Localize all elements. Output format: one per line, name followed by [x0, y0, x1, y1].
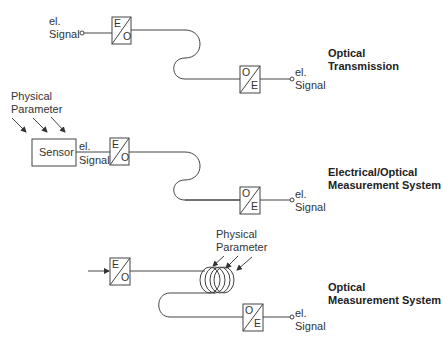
title-line: Optical [328, 47, 399, 60]
converter-top-letter: O [242, 67, 250, 78]
electrical-signal-label: el. Signal [79, 139, 110, 167]
parameter-arrow-icon [12, 118, 26, 132]
section-optical-transmission [80, 17, 294, 93]
optical-fiber [159, 293, 243, 317]
section-title: Optical Transmission [328, 47, 399, 73]
label-line: Parameter [216, 241, 267, 254]
label-line: Signal [295, 320, 326, 333]
label-line: el. [79, 139, 110, 153]
output-terminal-icon [290, 198, 294, 202]
label-line: el. [49, 15, 80, 28]
parameter-arrow-icon [51, 117, 65, 132]
physical-parameter-label: Physical Parameter [11, 90, 62, 116]
title-line: Transmission [328, 60, 399, 73]
converter-bottom-letter: E [251, 201, 258, 212]
input-terminal-icon [80, 31, 84, 35]
title-line: Measurement System [328, 294, 441, 307]
label-line: Signal [295, 201, 326, 214]
parameter-arrow-icon [33, 118, 47, 132]
converter-bottom-letter: O [123, 31, 131, 42]
label-line: el. [295, 188, 326, 201]
converter-bottom-letter: O [121, 272, 129, 283]
label-line: Signal [49, 28, 80, 41]
converter-bottom-letter: O [121, 152, 129, 163]
output-terminal-icon [290, 77, 294, 81]
converter-bottom-letter: E [254, 318, 261, 329]
title-line: Optical [328, 281, 441, 294]
label-line: Physical [11, 90, 62, 103]
converter-top-letter: E [112, 259, 119, 270]
title-line: Electrical/Optical [328, 166, 441, 179]
label-line: el. [295, 307, 326, 320]
input-signal-label: el. Signal [49, 15, 80, 41]
parameter-arrow-icon [237, 257, 252, 270]
sensor-label: Sensor [39, 146, 74, 159]
parameter-arrow-icon [226, 256, 238, 268]
parameter-arrow-icon [213, 256, 224, 266]
label-line: Physical [216, 228, 267, 241]
title-line: Measurement System [328, 179, 441, 192]
section-title: Electrical/Optical Measurement System [328, 166, 441, 192]
physical-parameter-label: Physical Parameter [216, 228, 267, 254]
label-line: Parameter [11, 103, 62, 116]
optical-fiber [129, 152, 240, 200]
output-terminal-icon [290, 315, 294, 319]
label-line: Signal [79, 153, 110, 167]
section-title: Optical Measurement System [328, 281, 441, 307]
label-line: el. [295, 66, 326, 79]
optical-fiber [131, 30, 240, 79]
output-signal-label: el. Signal [295, 188, 326, 214]
converter-top-letter: O [242, 188, 250, 199]
output-signal-label: el. Signal [295, 307, 326, 333]
converter-top-letter: E [112, 139, 119, 150]
output-signal-label: el. Signal [295, 66, 326, 92]
converter-top-letter: O [245, 305, 253, 316]
converter-bottom-letter: E [251, 80, 258, 91]
converter-top-letter: E [114, 18, 121, 29]
label-line: Signal [295, 79, 326, 92]
